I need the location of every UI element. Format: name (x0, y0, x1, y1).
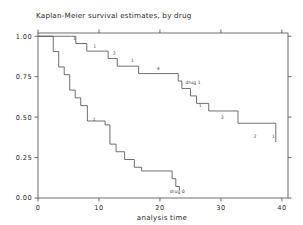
censor-count-label: 2 (254, 134, 257, 139)
censor-count-label: 1 (272, 134, 275, 139)
censor-count-label: 4 (157, 66, 160, 71)
censor-count-label: 1 (93, 117, 96, 122)
chart-canvas: Kaplan-Meier survival estimates, by drug… (0, 0, 303, 225)
survival-curve (38, 36, 179, 190)
censor-count-label: 3 (221, 115, 224, 120)
x-tick-label: 0 (36, 204, 41, 212)
at-risk-annotations: 1121413211 (73, 36, 275, 139)
y-tick-label: 0.75 (16, 73, 32, 81)
series-label-drug-1: drug 1 (186, 80, 201, 85)
y-tick-label: 0.50 (16, 114, 32, 122)
censor-count-label: 2 (113, 51, 116, 56)
x-axis-tick-labels: 010203040 (36, 204, 287, 212)
censor-count-label: 1 (93, 44, 96, 49)
censor-count-label: 1 (131, 58, 134, 63)
y-tick-label: 1.00 (16, 33, 32, 41)
x-axis-title: analysis time (137, 214, 187, 222)
y-tick-label: 0.25 (16, 154, 32, 162)
kaplan-meier-chart: Kaplan-Meier survival estimates, by drug… (0, 0, 303, 225)
censor-count-label: 1 (73, 36, 76, 41)
axis-ticks (35, 30, 292, 202)
survival-curve (38, 36, 276, 142)
page-title: Kaplan-Meier survival estimates, by drug (36, 11, 192, 20)
censor-count-label: 1 (199, 103, 202, 108)
x-tick-label: 30 (216, 204, 225, 212)
plot-frame (38, 33, 288, 198)
series-label-drug-0: drug 0 (170, 189, 185, 194)
x-tick-label: 20 (155, 204, 164, 212)
y-axis-tick-labels: 0.000.250.500.751.00 (16, 33, 32, 203)
x-tick-label: 10 (94, 204, 103, 212)
series-inline-labels: drug 1drug 0 (170, 80, 201, 195)
y-tick-label: 0.00 (16, 194, 32, 202)
x-tick-label: 40 (277, 204, 286, 212)
survival-curves (38, 36, 276, 190)
